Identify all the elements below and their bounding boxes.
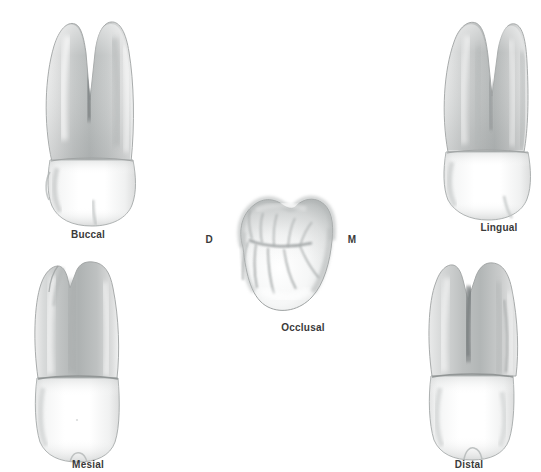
orientation-marker-mesial: M bbox=[348, 234, 356, 245]
figure-label-lingual: Lingual bbox=[481, 222, 518, 233]
figure-label-distal: Distal bbox=[455, 459, 483, 470]
tooth-view-mesial bbox=[35, 262, 119, 462]
figure-label-occlusal: Occlusal bbox=[281, 322, 324, 333]
tooth-view-distal bbox=[429, 263, 518, 460]
figure-label-buccal: Buccal bbox=[71, 229, 105, 240]
orientation-marker-distal: D bbox=[205, 234, 212, 245]
figure-label-mesial: Mesial bbox=[72, 459, 104, 470]
